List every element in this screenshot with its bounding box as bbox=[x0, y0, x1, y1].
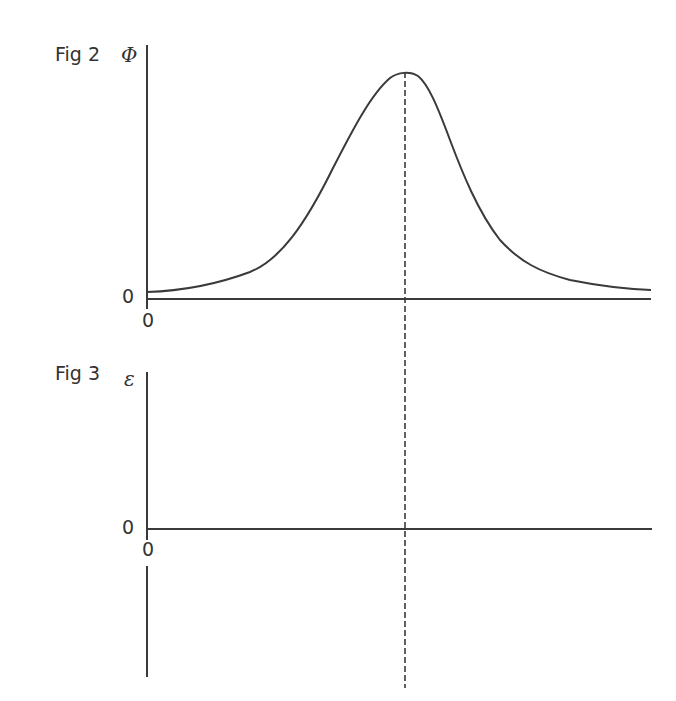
diagram-canvas bbox=[0, 0, 676, 701]
phi-curve bbox=[147, 73, 651, 292]
